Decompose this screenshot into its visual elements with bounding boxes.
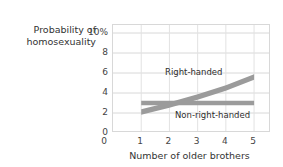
plot-area: Right-handed Non-right-handed xyxy=(112,24,270,132)
series-label-right-handed: Right-handed xyxy=(165,67,222,77)
y-tick-label: 2 xyxy=(82,107,108,117)
series-band-2 xyxy=(141,101,254,105)
y-tick-label: 4 xyxy=(82,87,108,97)
y-tick-label: 6 xyxy=(82,67,108,77)
chart-figure: Probability of homosexuality 10%86420 Ri… xyxy=(0,0,283,167)
x-axis-title: Number of older brothers xyxy=(96,150,283,161)
x-tick-label: 2 xyxy=(158,136,178,146)
y-axis-tick-labels: 10%86420 xyxy=(80,24,108,132)
x-tick-label: 3 xyxy=(187,136,207,146)
series-label-non-right-handed: Non-right-handed xyxy=(175,110,250,120)
x-tick-label: 4 xyxy=(215,136,235,146)
x-tick-label: 5 xyxy=(243,136,263,146)
y-tick-label: 10% xyxy=(82,27,108,37)
x-tick-label: 1 xyxy=(130,136,150,146)
y-tick-label: 8 xyxy=(82,47,108,57)
x-axis-tick-labels: 12345 xyxy=(112,136,270,148)
x-axis-origin-label: 0 xyxy=(96,136,112,146)
